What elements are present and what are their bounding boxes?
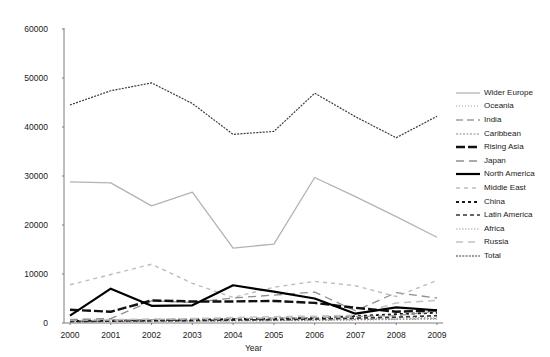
legend-swatch-icon	[456, 169, 480, 179]
legend-label: Russia	[484, 238, 508, 246]
chart-svg	[62, 27, 445, 325]
chart-page: 0100002000030000400005000060000 20002001…	[0, 0, 550, 357]
x-tick-label: 2001	[91, 331, 131, 340]
x-tick-label: 2008	[376, 331, 416, 340]
legend-item-latin-america[interactable]: Latin America	[456, 208, 550, 222]
axis-lines	[62, 28, 443, 325]
page-title	[6, 0, 446, 7]
x-tick-label: 2000	[50, 331, 90, 340]
legend-swatch-icon	[456, 88, 480, 98]
legend-item-wider-europe[interactable]: Wider Europe	[456, 86, 550, 100]
legend-item-total[interactable]: Total	[456, 249, 550, 263]
legend-item-middle-east[interactable]: Middle East	[456, 181, 550, 195]
legend-label: Japan	[484, 157, 506, 165]
legend-swatch-icon	[456, 183, 480, 193]
legend-swatch-icon	[456, 115, 480, 125]
legend-item-africa[interactable]: Africa	[456, 222, 550, 236]
legend-swatch-icon	[456, 224, 480, 234]
legend-item-oceania[interactable]: Oceania	[456, 100, 550, 114]
y-tick-label: 0	[0, 319, 48, 328]
y-tick-label: 20000	[0, 221, 48, 230]
legend-item-china[interactable]: China	[456, 195, 550, 209]
legend-item-rising-asia[interactable]: Rising Asia	[456, 140, 550, 154]
legend-label: Rising Asia	[484, 143, 524, 151]
legend-label: Latin America	[484, 211, 532, 219]
series-line-total	[70, 83, 437, 138]
legend-item-caribbean[interactable]: Caribbean	[456, 127, 550, 141]
legend-swatch-icon	[456, 129, 480, 139]
series-line-middle-east	[70, 264, 437, 297]
legend: Wider EuropeOceaniaIndiaCaribbeanRising …	[456, 86, 550, 263]
legend-label: Wider Europe	[484, 89, 533, 97]
legend-label: Oceania	[484, 102, 514, 110]
series-line-wider-europe	[70, 177, 437, 248]
legend-label: Total	[484, 252, 501, 260]
x-axis-title: Year	[62, 343, 445, 353]
legend-item-russia[interactable]: Russia	[456, 236, 550, 250]
legend-swatch-icon	[456, 237, 480, 247]
x-tick-label: 2005	[254, 331, 294, 340]
legend-swatch-icon	[456, 197, 480, 207]
y-tick-label: 30000	[0, 172, 48, 181]
legend-item-india[interactable]: India	[456, 113, 550, 127]
y-tick-label: 10000	[0, 270, 48, 279]
plot-area	[62, 27, 445, 325]
legend-label: India	[484, 116, 501, 124]
legend-label: Middle East	[484, 184, 526, 192]
x-tick-label: 2003	[172, 331, 212, 340]
legend-swatch-icon	[456, 101, 480, 111]
legend-swatch-icon	[456, 156, 480, 166]
legend-label: China	[484, 198, 505, 206]
legend-swatch-icon	[456, 142, 480, 152]
x-tick-label: 2006	[295, 331, 335, 340]
y-tick-label: 40000	[0, 123, 48, 132]
x-tick-label: 2007	[335, 331, 375, 340]
axis-frame	[64, 28, 443, 323]
legend-swatch-icon	[456, 210, 480, 220]
legend-swatch-icon	[456, 251, 480, 261]
y-tick-label: 60000	[0, 25, 48, 34]
y-tick-label: 50000	[0, 74, 48, 83]
legend-label: Caribbean	[484, 130, 521, 138]
series-lines	[70, 83, 437, 322]
x-tick-label: 2002	[132, 331, 172, 340]
x-tick-label: 2009	[417, 331, 457, 340]
x-tick-label: 2004	[213, 331, 253, 340]
legend-label: Africa	[484, 225, 504, 233]
legend-item-north-america[interactable]: North America	[456, 168, 550, 182]
legend-item-japan[interactable]: Japan	[456, 154, 550, 168]
legend-label: North America	[484, 170, 535, 178]
